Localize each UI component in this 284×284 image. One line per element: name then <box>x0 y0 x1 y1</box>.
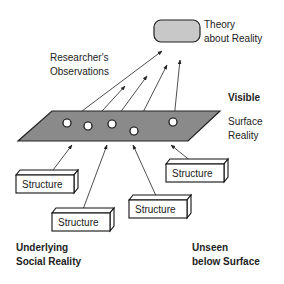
svg-text:Structure: Structure <box>172 168 213 179</box>
svg-text:Reality: Reality <box>228 130 259 141</box>
svg-text:Theory: Theory <box>204 19 235 30</box>
svg-text:Observations: Observations <box>50 66 109 77</box>
structure-box-3: Structure <box>129 195 191 218</box>
visible-label: Visible <box>228 92 260 103</box>
svg-text:Structure: Structure <box>22 179 63 190</box>
svg-text:Social Reality: Social Reality <box>16 256 81 267</box>
unseen-label-1: Unseen <box>192 242 228 253</box>
svg-text:Structure: Structure <box>58 217 99 228</box>
svg-text:Visible: Visible <box>228 92 260 103</box>
structure-label-1: Structure <box>22 179 63 190</box>
observations-label-2: Observations <box>50 66 109 77</box>
unseen-label-2: below Surface <box>192 256 260 267</box>
underlying-label-2: Social Reality <box>16 256 81 267</box>
observations-label-1: Researcher's <box>50 52 109 63</box>
svg-text:about Reality: about Reality <box>204 33 262 44</box>
structure-box-1: Structure <box>16 170 78 193</box>
theory-box <box>154 20 200 42</box>
diagram-canvas: Theory about Reality Researcher's Observ… <box>0 0 284 284</box>
theory-label-1: Theory <box>204 19 235 30</box>
structure-label-4: Structure <box>172 168 213 179</box>
svg-text:Underlying: Underlying <box>16 242 68 253</box>
svg-text:Surface: Surface <box>228 116 263 127</box>
structure-box-2: Structure <box>52 208 114 231</box>
theory-label-2: about Reality <box>204 33 262 44</box>
svg-text:Unseen: Unseen <box>192 242 228 253</box>
svg-text:Structure: Structure <box>135 204 176 215</box>
svg-text:below Surface: below Surface <box>192 256 260 267</box>
surface-plane <box>18 111 220 141</box>
underlying-label-1: Underlying <box>16 242 68 253</box>
structure-label-2: Structure <box>58 217 99 228</box>
surface-label-2: Reality <box>228 130 259 141</box>
surface-label-1: Surface <box>228 116 263 127</box>
svg-text:Researcher's: Researcher's <box>50 52 109 63</box>
structure-box-4: Structure <box>166 159 228 182</box>
structure-label-3: Structure <box>135 204 176 215</box>
